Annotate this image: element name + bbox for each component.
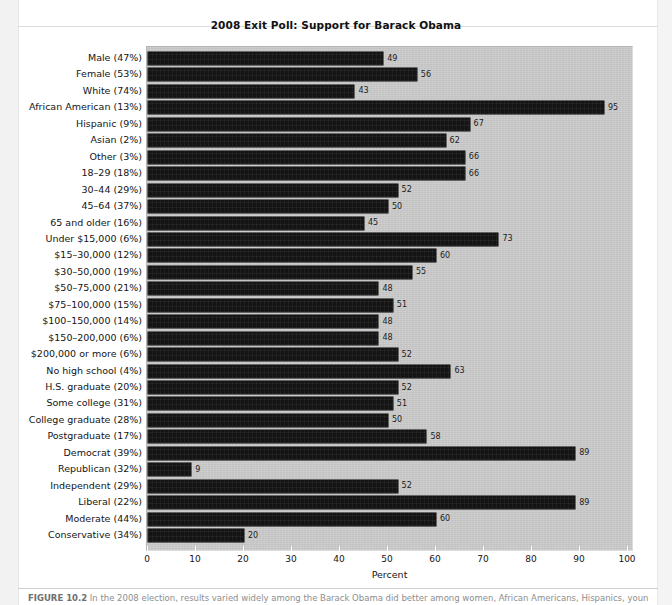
category-label: $100–150,000 (14%)	[4, 314, 146, 327]
bar	[148, 184, 398, 197]
bar	[148, 315, 378, 328]
bar	[148, 447, 575, 460]
figure-caption: FIGURE 10.2 In the 2008 election, result…	[28, 593, 648, 604]
category-label: Conservative (34%)	[4, 528, 146, 541]
bar-value-label: 20	[248, 529, 258, 542]
bar	[148, 299, 393, 312]
bar-value-label: 73	[502, 232, 512, 245]
bar-value-label: 45	[368, 216, 378, 229]
bar-value-label: 60	[440, 249, 450, 262]
bar	[148, 332, 378, 345]
x-tick-mark	[147, 546, 148, 551]
category-label: 45–64 (37%)	[4, 199, 146, 212]
category-label: 30–44 (29%)	[4, 183, 146, 196]
bar	[148, 118, 470, 131]
category-label: $150–200,000 (6%)	[4, 331, 146, 344]
bar	[148, 151, 465, 164]
figure-caption-text: In the 2008 election, results varied wid…	[90, 593, 648, 603]
bar	[148, 52, 383, 65]
x-tick-label: 50	[381, 554, 392, 564]
x-tick-mark	[531, 546, 532, 551]
bar-value-label: 9	[195, 463, 200, 476]
bar-value-label: 89	[579, 496, 589, 509]
x-tick-label: 30	[285, 554, 296, 564]
bar-value-label: 66	[469, 150, 479, 163]
x-tick-label: 90	[573, 554, 584, 564]
category-label: $30–50,000 (19%)	[4, 265, 146, 278]
category-label: Republican (32%)	[4, 462, 146, 475]
figure-caption-label: FIGURE 10.2	[28, 593, 87, 603]
bar-value-label: 66	[469, 167, 479, 180]
bar-value-label: 43	[358, 84, 368, 97]
x-tick-mark	[483, 546, 484, 551]
bar-value-label: 52	[402, 348, 412, 361]
x-tick-mark	[579, 546, 580, 551]
bar-value-label: 49	[387, 52, 397, 65]
bar	[148, 282, 378, 295]
bar-value-label: 63	[454, 364, 464, 377]
bar	[148, 513, 436, 526]
bar-value-label: 48	[382, 282, 392, 295]
x-tick-label: 10	[189, 554, 200, 564]
category-label: White (74%)	[4, 84, 146, 97]
x-tick-label: 0	[144, 554, 150, 564]
bar-value-label: 50	[392, 200, 402, 213]
x-tick-label: 80	[525, 554, 536, 564]
chart-title: 2008 Exit Poll: Support for Barack Obama	[0, 19, 672, 31]
figure-page: 2008 Exit Poll: Support for Barack Obama…	[0, 0, 672, 605]
category-label: Female (53%)	[4, 67, 146, 80]
x-tick-label: 60	[429, 554, 440, 564]
bar	[148, 480, 398, 493]
bar	[148, 249, 436, 262]
category-axis: Male (47%)Female (53%)White (74%)African…	[0, 46, 146, 551]
x-tick-mark	[627, 546, 628, 551]
bar	[148, 68, 417, 81]
x-tick-mark	[339, 546, 340, 551]
category-label: Democrat (39%)	[4, 446, 146, 459]
bar	[148, 101, 604, 114]
bar	[148, 348, 398, 361]
bar	[148, 529, 244, 542]
plot-area: 4956439567626666525045736055485148485263…	[146, 46, 633, 551]
bar	[148, 430, 426, 443]
category-label: $50–75,000 (21%)	[4, 281, 146, 294]
x-axis-title: Percent	[146, 569, 633, 580]
bar	[148, 134, 446, 147]
bar	[148, 463, 191, 476]
bar	[148, 365, 450, 378]
category-label: Moderate (44%)	[4, 512, 146, 525]
x-tick-mark	[387, 546, 388, 551]
bar-value-label: 51	[397, 298, 407, 311]
bar-value-label: 55	[416, 265, 426, 278]
category-label: Male (47%)	[4, 51, 146, 64]
bar	[148, 381, 398, 394]
bar	[148, 496, 575, 509]
bar-value-label: 52	[402, 479, 412, 492]
x-tick-label: 100	[618, 554, 635, 564]
bar-value-label: 52	[402, 183, 412, 196]
category-label: $75–100,000 (15%)	[4, 298, 146, 311]
bar-value-label: 50	[392, 413, 402, 426]
bar	[148, 167, 465, 180]
x-tick-label: 40	[333, 554, 344, 564]
bar	[148, 217, 364, 230]
bar	[148, 414, 388, 427]
category-label: 18–29 (18%)	[4, 166, 146, 179]
bar-value-label: 60	[440, 512, 450, 525]
category-label: Under $15,000 (6%)	[4, 232, 146, 245]
category-label: College graduate (28%)	[4, 413, 146, 426]
bar	[148, 266, 412, 279]
bar	[148, 200, 388, 213]
bar	[148, 397, 393, 410]
x-tick-mark	[195, 546, 196, 551]
bar-value-label: 48	[382, 331, 392, 344]
bar-value-label: 62	[450, 134, 460, 147]
bar-value-label: 67	[474, 117, 484, 130]
category-label: 65 and older (16%)	[4, 216, 146, 229]
x-tick-mark	[243, 546, 244, 551]
bar-value-label: 52	[402, 381, 412, 394]
bar-value-label: 89	[579, 446, 589, 459]
category-label: Independent (29%)	[4, 479, 146, 492]
bar	[148, 85, 354, 98]
caption-divider	[18, 588, 658, 589]
